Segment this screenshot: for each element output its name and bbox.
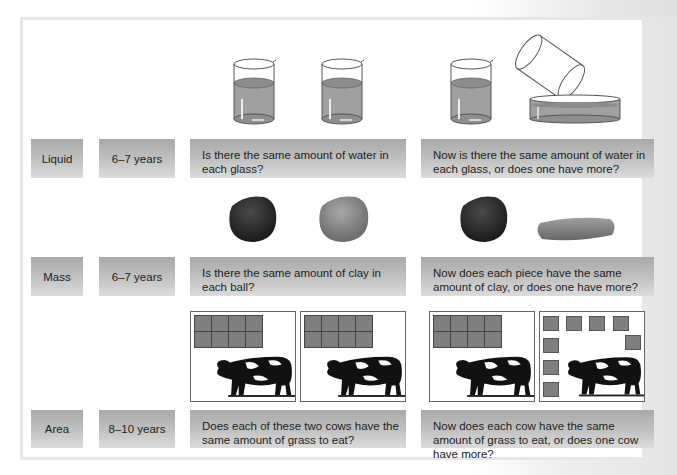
dark-clay-ball-icon [457, 194, 511, 244]
cow-grass-panel [300, 311, 406, 402]
age-label: 6–7 years [99, 257, 175, 296]
flattened-clay-icon [534, 215, 618, 243]
grass-square [566, 316, 582, 331]
question-after: Now is there the same amount of water in… [421, 139, 654, 178]
grass-square [543, 338, 559, 353]
beaker-icon [232, 57, 278, 127]
question-before: Does each of these two cows have the sam… [190, 410, 406, 448]
top-background [0, 0, 677, 17]
cow-grass-panel [429, 311, 535, 402]
grass-square [613, 316, 629, 331]
cow-icon [450, 348, 536, 400]
age-label: 8–10 years [99, 410, 175, 448]
age-label: 6–7 years [99, 139, 175, 178]
pouring-beaker-into-dish-icon [510, 33, 635, 128]
question-after: Now does each piece have the same amount… [421, 257, 654, 296]
grass-square [543, 382, 559, 397]
grouped-grass-squares [433, 315, 502, 348]
grass-square [589, 316, 605, 331]
grass-square [543, 316, 559, 331]
category-label: Liquid [31, 139, 83, 178]
question-before: Is there the same amount of water in eac… [190, 139, 406, 178]
category-label: Mass [31, 257, 83, 296]
cow-icon [562, 348, 646, 400]
beaker-icon [320, 57, 366, 127]
light-clay-ball-icon [316, 194, 372, 244]
cow-grass-panel [190, 311, 296, 402]
beaker-icon [449, 57, 495, 127]
grouped-grass-squares [194, 315, 263, 348]
grouped-grass-squares [304, 315, 373, 348]
cow-icon [321, 348, 407, 400]
grass-square [543, 360, 559, 375]
question-before: Is there the same amount of clay in each… [190, 257, 406, 296]
question-after: Now does each cow have the same amount o… [421, 410, 654, 448]
category-label: Area [31, 410, 83, 448]
dark-clay-ball-icon [226, 194, 280, 244]
cow-icon [211, 348, 297, 400]
cow-grass-panel-scattered [539, 311, 645, 402]
